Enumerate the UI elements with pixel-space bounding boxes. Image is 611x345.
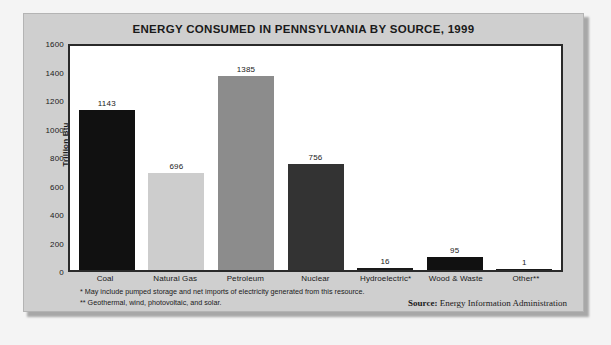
- chart-page: ENERGY CONSUMED IN PENNSYLVANIA BY SOURC…: [0, 0, 611, 345]
- y-tick-label: 1400: [24, 68, 64, 77]
- plot-inner: 1143696138575616951: [70, 46, 561, 270]
- bar-slot: 95: [420, 48, 490, 270]
- bar-value-label: 1143: [98, 99, 116, 108]
- y-tick-label: 600: [24, 182, 64, 191]
- bar[interactable]: 756: [288, 164, 344, 270]
- footnote-1: * May include pumped storage and net imp…: [80, 286, 364, 297]
- bar[interactable]: 1143: [79, 110, 135, 270]
- bar-slot: 16: [350, 48, 420, 270]
- bar[interactable]: 1385: [218, 76, 274, 270]
- bar-value-label: 1: [522, 258, 527, 267]
- y-tick-label: 1000: [24, 125, 64, 134]
- bar-value-label: 1385: [237, 65, 256, 74]
- bar[interactable]: 696: [148, 173, 204, 270]
- x-tick-label: Hydroelectric*: [351, 274, 421, 283]
- y-tick-label: 200: [24, 239, 64, 248]
- bar-slot: 1143: [72, 48, 142, 270]
- source-attribution: Source: Energy Information Administratio…: [408, 298, 567, 308]
- bar-value-label: 95: [450, 246, 459, 255]
- y-tick-label: 1200: [24, 97, 64, 106]
- footnote-2: ** Geothermal, wind, photovoltaic, and s…: [80, 297, 364, 308]
- bar-slot: 756: [281, 48, 351, 270]
- bar-slot: 1385: [211, 48, 281, 270]
- source-text: Energy Information Administration: [437, 298, 567, 308]
- bar-slot: 696: [142, 48, 212, 270]
- plot-area: 1143696138575616951: [68, 44, 563, 272]
- y-tick-label: 1600: [24, 40, 64, 49]
- chart-card: ENERGY CONSUMED IN PENNSYLVANIA BY SOURC…: [23, 13, 584, 312]
- x-tick-label: Petroleum: [210, 274, 280, 283]
- x-tick-label: Coal: [70, 274, 140, 283]
- bar[interactable]: 16: [357, 268, 413, 270]
- bar-series: 1143696138575616951: [72, 48, 559, 270]
- y-axis-ticks: 16001400120010008006004002000: [24, 44, 64, 272]
- y-tick-label: 800: [24, 154, 64, 163]
- x-tick-label: Other**: [491, 274, 561, 283]
- x-axis-labels: CoalNatural GasPetroleumNuclearHydroelec…: [70, 274, 561, 283]
- bar[interactable]: 95: [427, 257, 483, 270]
- y-tick-label: 0: [24, 268, 64, 277]
- bar-value-label: 756: [309, 153, 323, 162]
- y-tick-label: 400: [24, 211, 64, 220]
- page-title: ENERGY CONSUMED IN PENNSYLVANIA BY SOURC…: [24, 23, 583, 35]
- footnotes: * May include pumped storage and net imp…: [80, 286, 364, 308]
- x-tick-label: Wood & Waste: [421, 274, 491, 283]
- x-tick-label: Nuclear: [280, 274, 350, 283]
- bar[interactable]: 1: [496, 269, 552, 270]
- source-label: Source:: [408, 298, 437, 308]
- bar-value-label: 696: [169, 162, 183, 171]
- bar-value-label: 16: [380, 257, 389, 266]
- x-tick-label: Natural Gas: [140, 274, 210, 283]
- bar-slot: 1: [489, 48, 559, 270]
